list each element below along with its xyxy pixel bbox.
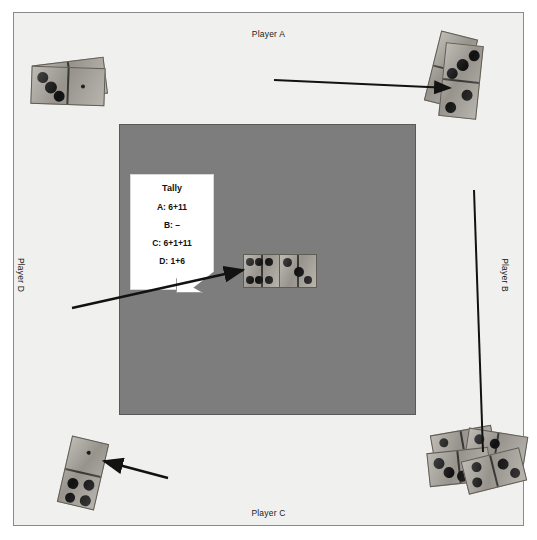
domino-pip [470, 461, 482, 473]
domino-pip [82, 479, 95, 492]
domino-divider [65, 468, 100, 478]
domino-pip [53, 91, 64, 102]
domino-tile-right [279, 254, 317, 288]
domino-pip [443, 467, 455, 479]
domino-pip [468, 50, 480, 62]
domino-pip [86, 450, 91, 455]
domino-pip [439, 438, 449, 448]
domino-pip [81, 84, 85, 88]
domino-pip [246, 258, 254, 266]
domino-divider [443, 78, 479, 83]
domino-stack-bottom-right [428, 428, 524, 510]
domino-divider [489, 455, 498, 486]
domino-pip [304, 276, 312, 284]
dominoes-game-diagram: Player A Player B Player C Player D [0, 0, 537, 540]
domino-tile-left [243, 254, 281, 288]
domino-pip [445, 102, 457, 114]
domino-stack-top-right [428, 32, 518, 120]
domino-pip [456, 58, 469, 71]
tally-line-a: A: 6+11 [131, 202, 213, 212]
domino-pip [265, 258, 273, 266]
domino-pip [433, 458, 445, 470]
domino-pip [446, 67, 458, 79]
tally-title: Tally [131, 183, 213, 193]
domino-pip [265, 276, 273, 284]
player-label-b: Player B [500, 258, 510, 292]
domino-pip [471, 476, 483, 488]
center-play-tiles [243, 252, 319, 292]
domino-pip [246, 276, 254, 284]
player-label-d: Player D [16, 258, 26, 292]
domino-pip [461, 89, 473, 101]
domino-pip [64, 492, 76, 504]
tally-note: Tally A: 6+11 B: – C: 6+1+11 D: 1+6 [130, 174, 214, 290]
domino-stack-top-left [28, 55, 118, 115]
tally-line-b: B: – [131, 220, 213, 230]
domino-pip [79, 494, 92, 507]
domino-pip [66, 477, 79, 490]
domino-single-bottom-left [58, 437, 128, 509]
domino-pip [255, 258, 263, 266]
tally-line-c: C: 6+1+11 [131, 238, 213, 248]
domino-pip [489, 438, 500, 449]
domino-tile [438, 42, 484, 120]
domino-pip [474, 434, 485, 445]
domino-tile [57, 436, 109, 511]
domino-divider [67, 68, 70, 104]
domino-pip [294, 267, 304, 277]
domino-pip [283, 258, 292, 267]
domino-pip [255, 276, 263, 284]
domino-pip [509, 467, 521, 479]
domino-pip [496, 457, 509, 470]
tally-line-d: D: 1+6 [131, 256, 213, 266]
domino-tile [30, 66, 105, 107]
